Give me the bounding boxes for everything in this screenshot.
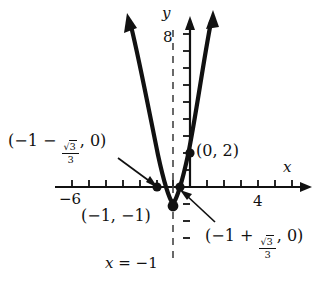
label-root-left-fraction: √3 3 xyxy=(62,140,78,165)
y-axis-label: y xyxy=(162,6,170,21)
leader-arrow-root-right xyxy=(180,190,215,222)
parabola-right-arrowhead xyxy=(206,10,219,29)
point-y-intercept xyxy=(185,148,194,157)
y-axis-arrowhead xyxy=(185,16,195,30)
label-vertex: (−1, −1) xyxy=(81,208,151,224)
label-y-intercept: (0, 2) xyxy=(196,143,239,159)
point-vertex xyxy=(168,201,179,212)
leader-arrow-root-left xyxy=(118,158,158,188)
radical-symbol-icon: √3 xyxy=(63,140,77,153)
parabola-left-arrowhead xyxy=(124,13,137,33)
x-tick-label-minus-6: −6 xyxy=(59,192,81,207)
label-root-right-numerator: √3 xyxy=(259,235,275,249)
x-axis-label: x xyxy=(283,160,291,175)
label-root-right-fraction: √3 3 xyxy=(259,235,275,260)
label-axis-of-symmetry-equation: = −1 xyxy=(113,254,157,272)
radical-symbol-icon: √3 xyxy=(260,235,274,248)
point-root-right xyxy=(175,182,184,191)
label-root-right: (−1 + √3 3 , 0) xyxy=(205,228,303,260)
x-axis-arrowhead xyxy=(300,182,312,192)
y-tick-label-8: 8 xyxy=(163,30,173,45)
label-axis-of-symmetry: x = −1 xyxy=(105,256,158,271)
x-tick-label-4: 4 xyxy=(253,194,263,209)
label-root-left-lead: −1 − xyxy=(14,131,61,150)
label-root-right-tail: , 0) xyxy=(277,226,304,245)
label-root-left-tail: , 0) xyxy=(80,131,107,150)
parabola-figure: y 8 x −6 4 (−1 − √3 3 , 0) (0, 2) (−1, −… xyxy=(0,0,323,283)
label-root-right-lead: −1 + xyxy=(211,226,258,245)
label-root-right-denominator: 3 xyxy=(263,249,271,260)
label-root-left-denominator: 3 xyxy=(66,154,74,165)
label-root-left: (−1 − √3 3 , 0) xyxy=(8,133,106,165)
label-root-left-numerator: √3 xyxy=(62,140,78,154)
